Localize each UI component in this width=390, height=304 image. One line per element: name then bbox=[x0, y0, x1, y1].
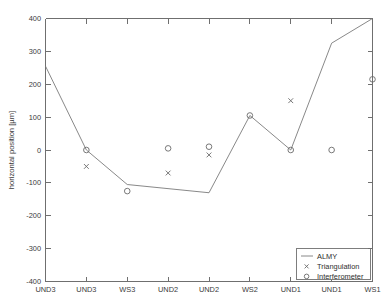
legend-label-triangulation: Triangulation bbox=[317, 262, 359, 271]
y-tick-label: 400 bbox=[29, 14, 41, 23]
y-tick-label: -100 bbox=[26, 178, 41, 187]
y-tick-label: 0 bbox=[37, 146, 41, 155]
y-tick-label: 100 bbox=[29, 113, 41, 122]
x-tick-label: WS2 bbox=[242, 285, 258, 294]
x-tick-label: UND1 bbox=[281, 285, 301, 294]
y-tick-label: -200 bbox=[26, 211, 41, 220]
y-axis-label: horizontal position [µm] bbox=[7, 111, 16, 189]
y-tick-label: -300 bbox=[26, 244, 41, 253]
x-tick-label: UND3 bbox=[76, 285, 96, 294]
x-tick-label: UND2 bbox=[199, 285, 219, 294]
y-tick-label: 200 bbox=[29, 80, 41, 89]
x-tick-label: WS1 bbox=[364, 285, 380, 294]
legend-label-interferometer: Interferometer bbox=[317, 272, 364, 281]
legend-label-almy: ALMY bbox=[317, 252, 337, 261]
y-tick-label: 300 bbox=[29, 47, 41, 56]
x-tick-label: UND2 bbox=[158, 285, 178, 294]
chart-svg: 400 300 200 100 0 -100 -200 -300 -400 ho… bbox=[0, 0, 390, 304]
x-tick-label: WS3 bbox=[119, 285, 135, 294]
chart-legend[interactable]: ALMY Triangulation Interferometer bbox=[297, 249, 371, 282]
x-tick-label: UND1 bbox=[322, 285, 342, 294]
x-tick-label: UND3 bbox=[35, 285, 55, 294]
chart-figure: 400 300 200 100 0 -100 -200 -300 -400 ho… bbox=[0, 0, 390, 304]
x-tick-labels: UND3 UND3 WS3 UND2 UND2 WS2 UND1 UND1 WS… bbox=[35, 285, 380, 294]
